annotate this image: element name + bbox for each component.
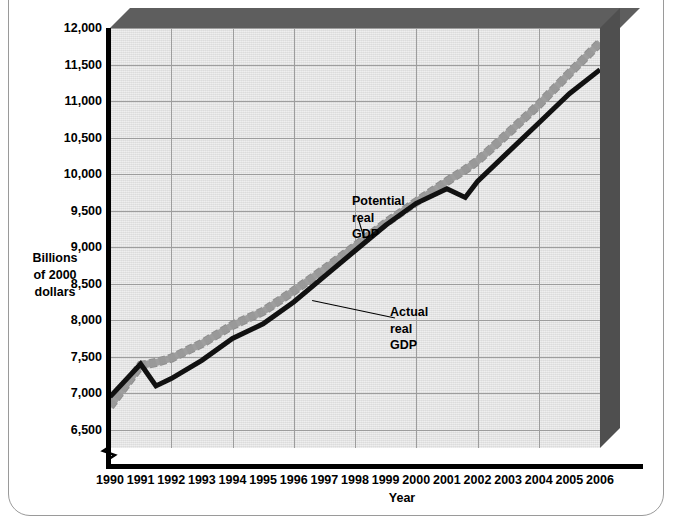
axis-break-icon [100, 440, 118, 462]
y-tick-label: 10,000 [34, 168, 102, 181]
y-tick-label: 11,500 [34, 59, 102, 72]
chart-bevel-top [110, 8, 640, 28]
y-tick-label: 7,500 [34, 351, 102, 364]
y-tick-label: 8,000 [34, 314, 102, 327]
chart-page: 12,00011,50011,00010,50010,0009,5009,000… [0, 0, 680, 528]
y-tick-label: 6,500 [34, 424, 102, 437]
annotation-potential-real-gdp: Potential real GDP [352, 193, 405, 243]
annotation-actual-real-gdp: Actual real GDP [390, 304, 428, 354]
y-tick-label: 7,000 [34, 387, 102, 400]
chart-bevel-right [600, 8, 620, 468]
y-axis-title-line: Billions [12, 250, 98, 267]
y-tick-label: 11,000 [34, 95, 102, 108]
y-axis-title: Billionsof 2000dollars [12, 250, 98, 301]
x-axis-tick-labels: 1990199119921993199419951996199719981999… [0, 474, 680, 494]
y-axis-title-line: dollars [12, 284, 98, 301]
x-axis-title: Year [372, 492, 432, 505]
x-tick-label: 2006 [578, 474, 622, 487]
y-tick-label: 9,500 [34, 205, 102, 218]
y-axis-line [106, 28, 111, 469]
y-axis-title-line: of 2000 [12, 267, 98, 284]
y-tick-label: 12,000 [34, 22, 102, 35]
actual-annotation-leader [312, 300, 395, 318]
x-axis-line [106, 464, 643, 469]
y-tick-label: 10,500 [34, 132, 102, 145]
